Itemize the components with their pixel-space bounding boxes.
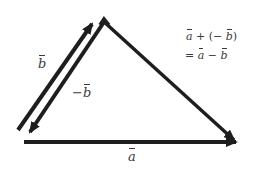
eq1-a: a xyxy=(186,31,193,42)
eq2-equals: = xyxy=(185,49,194,62)
eq2-a: a xyxy=(198,50,205,61)
equation-line-1: a + (− b) xyxy=(186,31,237,42)
label-neg-b: −b xyxy=(72,86,91,99)
minus-sign: − xyxy=(72,85,83,100)
vector-neg-b-arrow xyxy=(30,22,104,132)
eq2-minus: − xyxy=(208,49,217,62)
vector-subtraction-diagram: b −b a a + (− b) = a − b xyxy=(0,0,256,171)
vector-b-arrow xyxy=(18,24,92,130)
eq1-close-paren: ) xyxy=(233,30,237,43)
label-a: a xyxy=(128,150,136,163)
label-neg-b-text: b xyxy=(83,86,91,99)
label-b: b xyxy=(38,57,46,70)
eq1-minus: − xyxy=(213,30,222,43)
eq2-b: b xyxy=(221,50,228,61)
equation-line-2: = a − b xyxy=(185,50,228,61)
label-b-text: b xyxy=(38,57,46,70)
triangle-figure xyxy=(0,0,256,171)
label-a-text: a xyxy=(128,150,136,163)
eq1-b: b xyxy=(226,31,233,42)
eq1-plus: + xyxy=(196,30,205,43)
